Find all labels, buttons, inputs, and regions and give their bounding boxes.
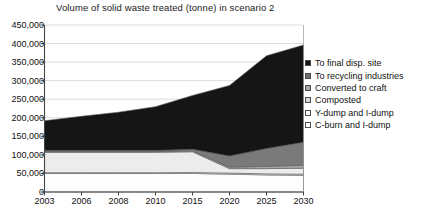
legend-label: Converted to craft — [315, 83, 387, 93]
legend-swatch-icon — [305, 85, 311, 91]
chart-container: Volume of solid waste treated (tonne) in… — [0, 0, 424, 218]
x-axis-tick-label: 2030 — [284, 196, 324, 206]
legend-label: Y-dump and I-dump — [315, 108, 394, 118]
legend-item[interactable]: Converted to craft — [305, 82, 424, 94]
legend-item[interactable]: To recycling industries — [305, 69, 424, 81]
legend-label: C-burn and I-dump — [315, 120, 391, 130]
legend-item[interactable]: C-burn and I-dump — [305, 119, 424, 131]
legend-label: To recycling industries — [315, 71, 404, 81]
x-axis-tick-label: 2006 — [62, 196, 102, 206]
x-axis-tick-label: 2025 — [247, 196, 287, 206]
x-axis-tick-label: 2008 — [99, 196, 139, 206]
legend-swatch-icon — [305, 122, 311, 128]
legend-item[interactable]: To final disp. site — [305, 57, 424, 69]
legend-swatch-icon — [305, 97, 311, 103]
legend-label: To final disp. site — [315, 58, 382, 68]
legend-item[interactable]: Y-dump and I-dump — [305, 107, 424, 119]
x-axis-tick-label: 2020 — [210, 196, 250, 206]
legend-label: Composted — [315, 95, 361, 105]
legend-item[interactable]: Composted — [305, 94, 424, 106]
legend-swatch-icon — [305, 73, 311, 79]
x-axis-tick-label: 2010 — [136, 196, 176, 206]
x-axis-tick-label: 2015 — [173, 196, 213, 206]
legend-swatch-icon — [305, 60, 311, 66]
x-axis-tick-label: 2003 — [25, 196, 65, 206]
legend-swatch-icon — [305, 110, 311, 116]
chart-legend: To final disp. siteTo recycling industri… — [305, 57, 424, 131]
